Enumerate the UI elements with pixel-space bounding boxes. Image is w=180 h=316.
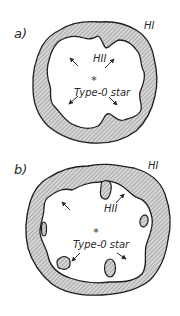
arrow-down-right-icon (109, 97, 117, 105)
globule-top (100, 181, 111, 200)
arrow-down-right-icon (117, 253, 126, 259)
star-label-b: Type-0 star (73, 239, 130, 250)
star-label-a: Type-0 star (74, 87, 131, 98)
panel-b: b) HI HII * Type-0 star (14, 160, 170, 295)
hi-region-label-b: HI (148, 160, 159, 171)
arrow-up-left-icon (62, 202, 70, 210)
star-symbol-a: * (91, 74, 97, 87)
globule-lower-left (57, 257, 70, 270)
star-symbol-b: * (93, 226, 99, 239)
hi-region-label-a: HI (144, 20, 155, 31)
globule-right (139, 214, 150, 228)
arrow-down-left-icon (72, 253, 80, 261)
hii-region-label-b: HII (104, 203, 117, 214)
globule-left (42, 222, 47, 236)
panel-a: a) HI HII * Type-0 star (14, 20, 157, 143)
hii-region-label-a: HII (93, 53, 106, 64)
arrow-up-right-icon (116, 194, 124, 203)
panel-b-label: b) (14, 162, 27, 177)
globule-bottom (105, 259, 116, 277)
arrow-up-left-icon (70, 58, 78, 66)
hii-region-diagram: a) HI HII * Type-0 star b) HI HII * Type… (0, 0, 180, 316)
panel-a-label: a) (14, 26, 27, 41)
